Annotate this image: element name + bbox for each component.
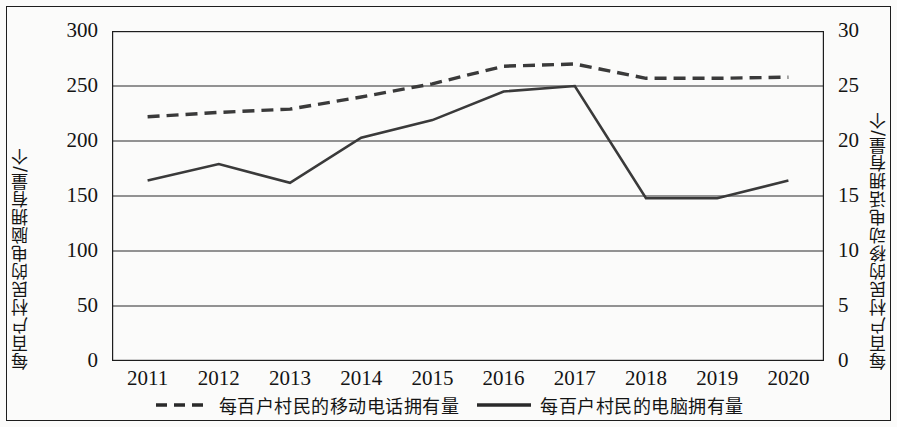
y-axis-right-tick-label: 25 xyxy=(838,75,859,96)
legend-item: 每百户村民的移动电话拥有量 xyxy=(154,392,460,418)
x-axis-tick-label: 2013 xyxy=(269,366,311,391)
x-axis-tick-label: 2015 xyxy=(411,366,453,391)
chart-legend: 每百户村民的移动电话拥有量每百户村民的电脑拥有量 xyxy=(0,392,897,418)
x-axis-tick-label: 2012 xyxy=(198,366,240,391)
legend-item: 每百户村民的电脑拥有量 xyxy=(475,392,744,418)
chart-figure: 每百户村民的电脑拥有量/个 每百户村民的移动电话拥有量/个 0501001502… xyxy=(0,0,897,427)
y-axis-left-tick-label: 200 xyxy=(67,130,99,151)
y-axis-right-tick-label: 0 xyxy=(838,350,849,371)
y-axis-right-tick-label: 5 xyxy=(838,295,849,316)
plot-area xyxy=(112,31,824,361)
x-axis-tick-label: 2017 xyxy=(554,366,596,391)
y-axis-left-tick-label: 250 xyxy=(67,75,99,96)
y-axis-left-ticks: 050100150200250300 xyxy=(30,31,104,361)
y-axis-left-tick-label: 0 xyxy=(88,350,99,371)
x-axis-tick-label: 2016 xyxy=(483,366,525,391)
y-axis-left-title: 每百户村民的电脑拥有量/个 xyxy=(12,20,29,370)
x-axis-tick-label: 2014 xyxy=(340,366,382,391)
y-axis-right-ticks: 051015202530 xyxy=(832,31,876,361)
legend-label: 每百户村民的电脑拥有量 xyxy=(540,392,744,418)
y-axis-left-tick-label: 300 xyxy=(67,20,99,41)
legend-solid-line-icon xyxy=(475,399,533,411)
x-axis-tick-label: 2019 xyxy=(696,366,738,391)
y-axis-right-tick-label: 15 xyxy=(838,185,859,206)
y-axis-right-tick-label: 30 xyxy=(838,20,859,41)
x-axis-tick-label: 2011 xyxy=(127,366,168,391)
legend-dashed-line-icon xyxy=(154,399,212,411)
y-axis-right-tick-label: 20 xyxy=(838,130,859,151)
y-axis-left-tick-label: 50 xyxy=(77,295,98,316)
y-axis-left-tick-label: 150 xyxy=(67,185,99,206)
x-axis-tick-label: 2020 xyxy=(767,366,809,391)
legend-label: 每百户村民的移动电话拥有量 xyxy=(219,392,460,418)
y-axis-left-tick-label: 100 xyxy=(67,240,99,261)
data-series-layer xyxy=(148,64,789,198)
series-line-2 xyxy=(148,86,789,198)
gridlines xyxy=(112,86,824,306)
series-line-1 xyxy=(148,64,789,117)
x-axis-tick-label: 2018 xyxy=(625,366,667,391)
y-axis-right-tick-label: 10 xyxy=(838,240,859,261)
plot-svg xyxy=(112,31,824,361)
